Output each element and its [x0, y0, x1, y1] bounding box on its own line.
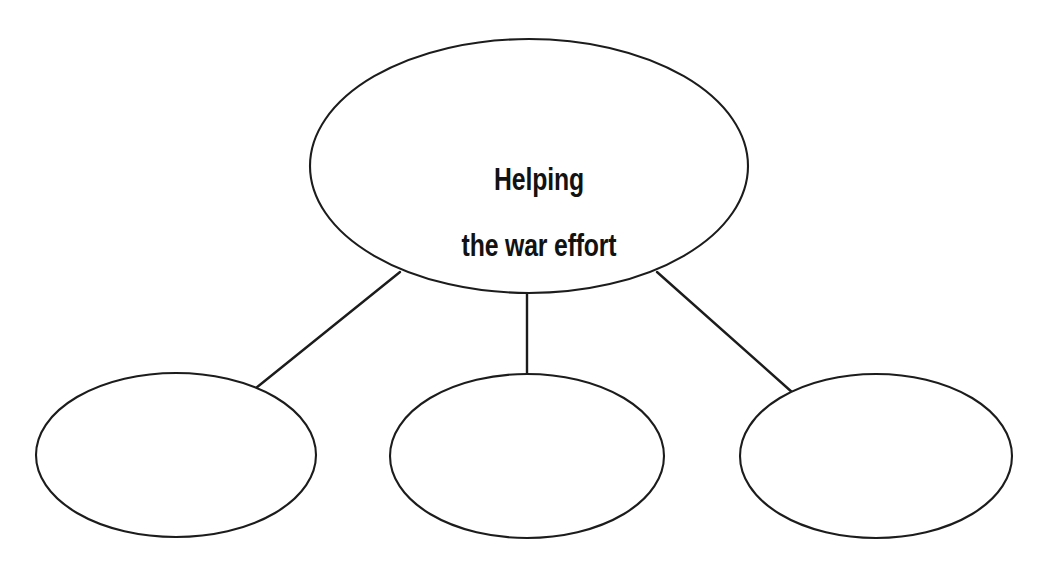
branch-node-ellipse-left[interactable] — [36, 373, 316, 537]
central-node-label: Helping the war effort — [371, 131, 707, 295]
diagram-canvas: Helping the war effort — [0, 0, 1038, 568]
branch-node-ellipse-center[interactable] — [390, 374, 664, 538]
central-node-label-line-2: the war effort — [371, 230, 707, 263]
branch-node-ellipse-right[interactable] — [740, 374, 1012, 538]
central-node-label-line-1: Helping — [371, 164, 707, 197]
